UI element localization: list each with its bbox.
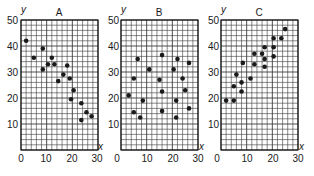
- data-point: [175, 57, 180, 62]
- plot-area: [200, 0, 300, 176]
- data-point: [132, 76, 137, 81]
- data-point: [171, 67, 176, 72]
- data-point: [132, 110, 137, 115]
- data-point: [262, 45, 267, 50]
- data-point: [61, 72, 66, 77]
- plot-area: [0, 0, 100, 176]
- data-point: [187, 61, 192, 66]
- panel-c: y C 50 40 30 20 10 0 10 20 30 x: [200, 0, 300, 176]
- panel-a: y A 50 40 30 20 10 0 10 20 30 x: [0, 0, 100, 176]
- data-point: [234, 72, 239, 77]
- data-point: [71, 88, 76, 93]
- data-point: [157, 78, 162, 83]
- data-point: [65, 63, 70, 68]
- data-point: [126, 93, 131, 98]
- data-point: [239, 89, 244, 94]
- data-point: [160, 53, 165, 58]
- data-point: [271, 54, 276, 59]
- data-point: [138, 115, 143, 120]
- data-point: [241, 61, 246, 66]
- data-point: [183, 88, 188, 93]
- panel-b: y B 50 40 30 20 10 0 10 20 30 x: [100, 0, 200, 176]
- data-point: [160, 109, 165, 114]
- data-point: [283, 27, 288, 32]
- data-point: [32, 55, 37, 60]
- data-point: [84, 110, 89, 115]
- data-point: [271, 36, 276, 41]
- data-point: [262, 57, 267, 62]
- data-point: [41, 46, 46, 51]
- data-point: [252, 62, 257, 67]
- data-point: [135, 57, 140, 62]
- data-point: [46, 62, 51, 67]
- data-point: [252, 52, 257, 57]
- data-point: [232, 98, 237, 103]
- data-point: [160, 89, 165, 94]
- data-point: [24, 39, 29, 44]
- data-point: [279, 36, 284, 41]
- data-point: [260, 52, 265, 57]
- data-point: [224, 98, 229, 103]
- data-point: [271, 45, 276, 50]
- data-point: [248, 76, 253, 81]
- data-point: [239, 80, 244, 85]
- data-point: [79, 118, 84, 123]
- data-point: [180, 76, 185, 81]
- plot-border: [21, 20, 98, 150]
- data-point: [56, 79, 61, 84]
- data-point: [174, 98, 179, 103]
- data-point: [67, 76, 72, 81]
- data-point: [232, 84, 237, 89]
- plot-border: [121, 20, 198, 150]
- data-point: [174, 115, 179, 120]
- data-point: [147, 67, 152, 72]
- data-point: [52, 62, 57, 67]
- plot-area: [100, 0, 200, 176]
- data-point: [187, 106, 192, 111]
- data-point: [262, 65, 267, 70]
- data-point: [79, 101, 84, 106]
- data-point: [41, 67, 46, 72]
- data-point: [50, 55, 55, 60]
- data-point: [141, 98, 146, 103]
- data-point: [69, 97, 74, 102]
- data-point: [89, 114, 94, 119]
